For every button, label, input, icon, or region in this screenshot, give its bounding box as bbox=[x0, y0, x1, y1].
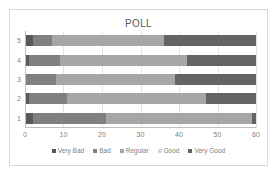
bar-segment[interactable] bbox=[106, 113, 252, 124]
x-axis-tick-label: 60 bbox=[252, 131, 260, 138]
chart-legend: Very BadBadRegularGoodVery Good bbox=[10, 147, 267, 154]
bar-row[interactable] bbox=[25, 74, 256, 85]
bar-segment[interactable] bbox=[187, 55, 256, 66]
bar-segment[interactable] bbox=[33, 35, 52, 46]
legend-label: Regular bbox=[126, 147, 149, 154]
plot-area: 54321 0102030405060 bbox=[25, 31, 256, 128]
bar-segment[interactable] bbox=[33, 113, 106, 124]
bar-segment[interactable] bbox=[25, 35, 33, 46]
legend-swatch-icon bbox=[52, 149, 56, 153]
bar-segment[interactable] bbox=[56, 74, 175, 85]
legend-label: Good bbox=[164, 147, 180, 154]
x-axis-tick-label: 40 bbox=[175, 131, 183, 138]
x-axis-line bbox=[25, 127, 256, 128]
bar-row[interactable] bbox=[25, 55, 256, 66]
y-axis-tick-label: 5 bbox=[17, 35, 21, 46]
x-axis-tick-label: 30 bbox=[137, 131, 145, 138]
x-axis-tick-label: 50 bbox=[214, 131, 222, 138]
gridline bbox=[256, 31, 257, 128]
legend-item[interactable]: Good bbox=[158, 147, 180, 154]
bar-segment[interactable] bbox=[25, 113, 33, 124]
bar-segment[interactable] bbox=[60, 55, 187, 66]
x-axis-tick-label: 20 bbox=[98, 131, 106, 138]
legend-item[interactable]: Bad bbox=[93, 147, 111, 154]
chart-title: POLL bbox=[10, 18, 267, 29]
x-axis-tick-label: 10 bbox=[60, 131, 68, 138]
legend-label: Very Good bbox=[194, 147, 225, 154]
bar-segment[interactable] bbox=[29, 55, 60, 66]
legend-item[interactable]: Very Good bbox=[188, 147, 225, 154]
bar-segment[interactable] bbox=[175, 74, 256, 85]
bar-segment[interactable] bbox=[67, 93, 206, 104]
x-axis-tick-label: 0 bbox=[23, 131, 27, 138]
bar-row[interactable] bbox=[25, 35, 256, 46]
legend-swatch-icon bbox=[188, 149, 192, 153]
legend-item[interactable]: Regular bbox=[120, 147, 149, 154]
bar-segment[interactable] bbox=[52, 35, 164, 46]
legend-swatch-icon bbox=[120, 149, 124, 153]
legend-swatch-icon bbox=[158, 149, 162, 153]
y-axis-tick-label: 3 bbox=[17, 74, 21, 85]
y-axis-line bbox=[25, 31, 26, 128]
bar-segment[interactable] bbox=[206, 93, 256, 104]
legend-swatch-icon bbox=[93, 149, 97, 153]
bar-row[interactable] bbox=[25, 113, 256, 124]
bar-segment[interactable] bbox=[29, 93, 67, 104]
bar-row[interactable] bbox=[25, 93, 256, 104]
chart-container: POLL 54321 0102030405060 Very BadBadRegu… bbox=[9, 9, 268, 166]
legend-label: Very Bad bbox=[58, 147, 84, 154]
legend-label: Bad bbox=[99, 147, 111, 154]
y-axis-tick-label: 1 bbox=[17, 113, 21, 124]
bar-segment[interactable] bbox=[25, 74, 56, 85]
bar-segment[interactable] bbox=[252, 113, 256, 124]
y-axis-tick-label: 4 bbox=[17, 55, 21, 66]
y-axis-tick-label: 2 bbox=[17, 93, 21, 104]
bar-segment[interactable] bbox=[164, 35, 256, 46]
legend-item[interactable]: Very Bad bbox=[52, 147, 84, 154]
